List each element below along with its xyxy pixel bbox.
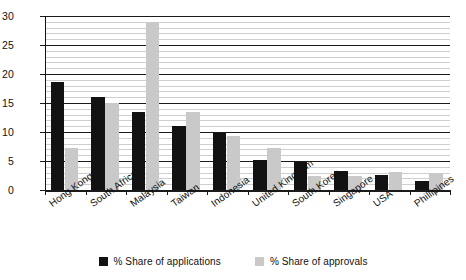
y-tick-label: 15 (0, 98, 14, 108)
bar-chart: 051015202530 Hong KongSouth AfricaMalays… (0, 0, 466, 280)
x-tick-mark (329, 190, 330, 195)
bar-group (410, 16, 451, 190)
y-tick-label: 0 (0, 185, 14, 195)
x-tick-mark (450, 190, 451, 195)
bar-group (248, 16, 289, 190)
bar-group (126, 16, 167, 190)
x-tick-mark (288, 190, 289, 195)
bar (186, 112, 200, 190)
y-tick-label: 20 (0, 69, 14, 79)
x-tick-mark (410, 190, 411, 195)
legend-item-approvals: % Share of approvals (255, 256, 368, 267)
bar-group (207, 16, 248, 190)
y-tick-label: 10 (0, 127, 14, 137)
y-tick-label: 25 (0, 40, 14, 50)
bar (213, 133, 227, 190)
bar (105, 103, 119, 190)
bar-group (369, 16, 410, 190)
x-tick-mark (167, 190, 168, 195)
x-tick-mark (86, 190, 87, 195)
y-tick-label: 5 (0, 156, 14, 166)
chart-legend: % Share of applications % Share of appro… (0, 256, 466, 267)
legend-label-approvals: % Share of approvals (270, 256, 368, 267)
dark-square-icon (99, 257, 108, 266)
x-tick-mark (207, 190, 208, 195)
light-square-icon (255, 257, 264, 266)
y-tick-label: 30 (0, 11, 14, 21)
bar (389, 172, 403, 190)
bars-layer (45, 16, 450, 190)
legend-label-applications: % Share of applications (114, 256, 221, 267)
bar-group (86, 16, 127, 190)
bar (51, 82, 65, 190)
bar-group (45, 16, 86, 190)
bar (253, 160, 267, 190)
bar (146, 22, 160, 190)
x-tick-mark (369, 190, 370, 195)
x-tick-mark (248, 190, 249, 195)
x-axis-labels: Hong KongSouth AfricaMalaysiaTaiwanIndon… (0, 196, 466, 254)
bar (172, 126, 186, 190)
x-tick-mark (45, 190, 46, 195)
bar-group (329, 16, 370, 190)
x-tick-mark (126, 190, 127, 195)
legend-item-applications: % Share of applications (99, 256, 221, 267)
bar-group (167, 16, 208, 190)
